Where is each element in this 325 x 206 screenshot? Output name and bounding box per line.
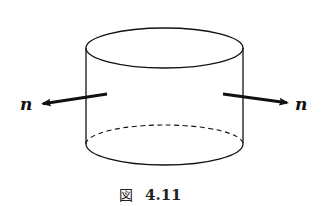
left-normal-arrow xyxy=(43,94,107,104)
right-normal-label: n xyxy=(295,94,307,114)
right-normal-arrow xyxy=(223,94,287,103)
figure-canvas: n n 図 4.11 xyxy=(0,0,325,206)
cylinder-bottom-hidden-edge xyxy=(86,125,243,144)
cylinder-bottom-visible-edge xyxy=(86,144,243,165)
cylinder-top-face xyxy=(86,28,243,68)
cylinder-diagram: n n 図 4.11 xyxy=(0,0,325,206)
left-normal-label: n xyxy=(20,94,32,114)
figure-caption-number: 4.11 xyxy=(145,186,182,204)
figure-caption-prefix: 図 xyxy=(119,187,133,203)
